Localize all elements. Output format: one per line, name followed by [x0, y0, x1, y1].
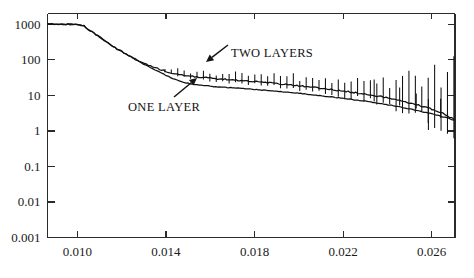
chart-plot: 10001001010.10.010.001 0.0100.0140.0180.… — [0, 0, 474, 278]
x-axis-tick-label: 0.010 — [63, 244, 92, 259]
y-axis-tick-label: 1 — [34, 123, 41, 138]
two-layers-label: TWO LAYERS — [231, 46, 313, 60]
y-axis-tick-label: 10 — [28, 88, 41, 103]
y-axis-tick-label: 1000 — [15, 17, 41, 32]
y-axis-tick-label: 100 — [21, 52, 41, 67]
y-axis-tick-label: 0.01 — [18, 194, 41, 209]
y-axis-tick-label: 0.1 — [24, 159, 40, 174]
x-axis-tick-label: 0.022 — [329, 244, 358, 259]
chart-background — [0, 0, 474, 278]
x-axis-tick-label: 0.018 — [240, 244, 269, 259]
one-layer-label: ONE LAYER — [128, 100, 200, 114]
y-axis-tick-label: 0.001 — [11, 230, 40, 245]
x-axis-tick-label: 0.014 — [151, 244, 181, 259]
figure-container: 10001001010.10.010.001 0.0100.0140.0180.… — [0, 0, 474, 278]
x-axis-tick-label: 0.026 — [417, 244, 447, 259]
